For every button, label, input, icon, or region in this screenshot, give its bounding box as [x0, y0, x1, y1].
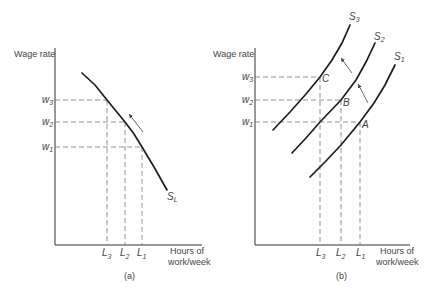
hours-label-l2: L2	[120, 247, 130, 260]
point-a: A	[361, 119, 369, 130]
x-axis-label-line1: Hours of	[380, 246, 415, 256]
x-axis-label-line2: work/week	[167, 257, 211, 267]
hours-label-l3: L3	[316, 247, 326, 260]
curve-label-s2: S2	[374, 31, 385, 43]
guide-lines	[55, 100, 142, 245]
labor-supply-diagram: Wage rate w3 w2 w1 L3 L2 L1 Hours of wor…	[0, 0, 433, 291]
hours-label-l1: L1	[356, 247, 366, 260]
supply-curve-sl	[82, 73, 167, 190]
wage-label-w2: w2	[242, 94, 253, 106]
curve-label-sl: SL	[167, 191, 178, 203]
panel-b: Wage rate w3 w2 w1 L3 L2 L1 Hours of wor…	[213, 11, 419, 281]
shift-arrow-icon	[358, 84, 368, 103]
x-axis-label-line2: work/week	[375, 257, 419, 267]
panel-caption: (b)	[336, 271, 347, 281]
x-axis-label-line1: Hours of	[170, 246, 205, 256]
axes	[255, 48, 410, 245]
shift-arrow-icon	[341, 58, 352, 73]
y-axis-label: Wage rate	[213, 49, 254, 59]
y-axis-label: Wage rate	[14, 49, 55, 59]
point-b: B	[343, 97, 350, 108]
hours-label-l2: L2	[336, 247, 346, 260]
wage-label-w2: w2	[42, 116, 53, 128]
wage-label-w3: w3	[42, 94, 53, 106]
panel-caption: (a)	[124, 271, 135, 281]
hours-label-l3: L3	[102, 247, 112, 260]
panel-a: Wage rate w3 w2 w1 L3 L2 L1 Hours of wor…	[14, 48, 211, 281]
axes	[55, 48, 202, 245]
wage-label-w3: w3	[242, 71, 253, 83]
wage-label-w1: w1	[42, 141, 53, 153]
curve-label-s3: S3	[349, 11, 360, 23]
wage-label-w1: w1	[242, 116, 253, 128]
supply-curve-s3	[273, 25, 350, 130]
hours-label-l1: L1	[137, 247, 147, 260]
curve-label-s1: S1	[394, 51, 405, 63]
point-c: C	[322, 73, 330, 84]
supply-curve-s2	[292, 43, 375, 153]
